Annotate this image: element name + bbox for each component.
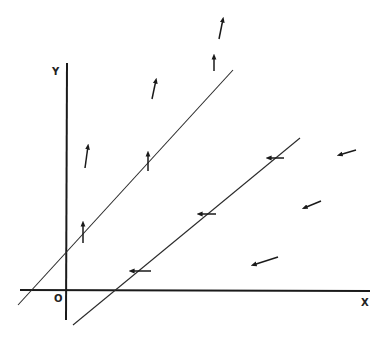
vector-field-diagram: Y O X bbox=[0, 0, 388, 339]
y-axis bbox=[66, 63, 67, 320]
leftward-arrow-icon bbox=[339, 150, 356, 155]
x-axis bbox=[20, 290, 370, 291]
lower-line bbox=[73, 138, 300, 325]
leftward-arrow-icon bbox=[253, 257, 278, 265]
upward-arrow-icon bbox=[152, 80, 156, 99]
origin-label: O bbox=[54, 293, 63, 304]
leftward-arrow-icon bbox=[304, 201, 321, 208]
x-axis-label: X bbox=[361, 297, 369, 308]
upward-arrow-icon bbox=[219, 19, 223, 39]
upward-arrow-icon bbox=[85, 146, 88, 168]
upper-line bbox=[18, 70, 233, 305]
y-axis-label: Y bbox=[51, 66, 60, 77]
